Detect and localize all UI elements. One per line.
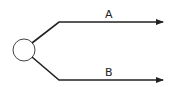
branch-b-arrow bbox=[32, 57, 163, 80]
branch-a-label: A bbox=[105, 8, 113, 21]
branch-b-label: B bbox=[105, 66, 113, 79]
branch-a-arrow bbox=[32, 22, 163, 43]
branch-diagram: A B bbox=[0, 0, 179, 87]
